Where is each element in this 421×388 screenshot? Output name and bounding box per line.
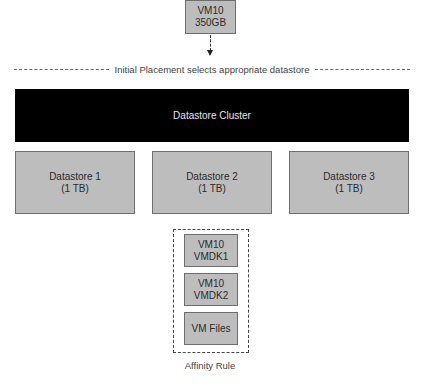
vm-files-box: VM Files [184, 312, 238, 345]
vm10-vmdk1-box: VM10 VMDK1 [184, 234, 238, 267]
vm-size: 350GB [195, 17, 226, 29]
affinity-rule-label: Affinity Rule [150, 360, 270, 371]
dashed-arrow-line [210, 35, 211, 51]
vm-files-label: VM Files [192, 323, 231, 335]
vm10-vmdk2-box: VM10 VMDK2 [184, 273, 238, 306]
vmdk-line2: VMDK2 [194, 290, 228, 302]
datastore-size: (1 TB) [61, 183, 89, 195]
vmdk-line2: VMDK1 [194, 251, 228, 263]
datastore-3: Datastore 3 (1 TB) [289, 151, 409, 214]
vmdk-line1: VM10 [198, 239, 224, 251]
dashed-line-left [14, 69, 109, 70]
initial-placement-label: Initial Placement selects appropriate da… [109, 64, 316, 75]
datastore-1: Datastore 1 (1 TB) [15, 151, 135, 214]
datastore-size: (1 TB) [335, 183, 363, 195]
datastore-2: Datastore 2 (1 TB) [152, 151, 272, 214]
initial-placement-divider: Initial Placement selects appropriate da… [14, 62, 410, 76]
vmdk-line1: VM10 [198, 278, 224, 290]
dashed-line-right [315, 69, 410, 70]
datastore-size: (1 TB) [198, 183, 226, 195]
datastore-cluster: Datastore Cluster [15, 89, 409, 142]
datastore-name: Datastore 2 [186, 171, 238, 183]
arrow-down-icon [207, 50, 213, 56]
datastore-name: Datastore 3 [323, 171, 375, 183]
vm-name: VM10 [197, 5, 223, 17]
datastore-name: Datastore 1 [49, 171, 101, 183]
vm10-box: VM10 350GB [185, 0, 236, 34]
datastore-cluster-label: Datastore Cluster [173, 110, 251, 121]
